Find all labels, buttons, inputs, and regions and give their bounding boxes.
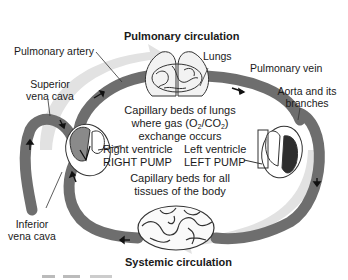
tissue-capillary-beds-text: Capillary beds for all tissues of the bo… (110, 172, 250, 198)
pulmonary-vein-label: Pulmonary vein (250, 62, 322, 74)
lungs-label: Lungs (203, 50, 232, 62)
lung-capillary-beds-text: Capillary beds of lungs where gas (O2/CO… (110, 104, 250, 143)
systemic-capillary-bed-icon (138, 206, 214, 250)
superior-vena-cava-label: Superior vena cava (24, 78, 76, 102)
inferior-vena-cava-label: Inferior vena cava (4, 218, 60, 242)
left-heart-icon (244, 122, 307, 181)
circulation-diagram: Pulmonary circulation Pulmonary artery L… (0, 0, 348, 280)
aorta-label: Aorta and its branches (271, 85, 343, 109)
right-ventricle-label: Right ventricle RIGHT PUMP (103, 143, 173, 169)
cropped-figure-caption (42, 275, 112, 278)
pulmonary-artery-label: Pulmonary artery (14, 45, 94, 57)
pulmonary-circulation-title: Pulmonary circulation (124, 30, 240, 42)
lungs-icon (145, 52, 208, 96)
systemic-circulation-title: Systemic circulation (125, 256, 232, 268)
left-ventricle-label: Left ventricle LEFT PUMP (184, 143, 246, 169)
